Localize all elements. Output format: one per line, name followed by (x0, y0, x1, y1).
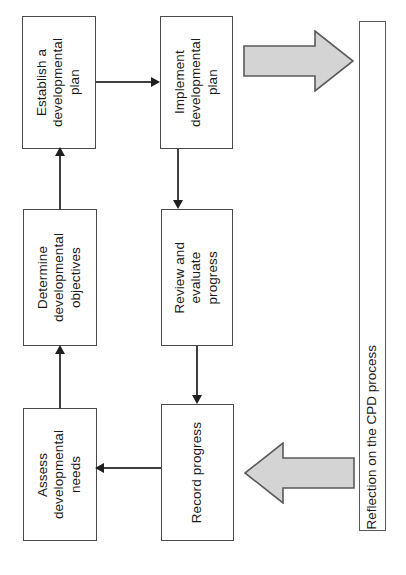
node-establish-plan-label: Establish a developmental plan (34, 38, 83, 127)
connector-assess-to-determine-arrowhead (55, 345, 65, 354)
connector-implement-to-review-line (177, 149, 179, 202)
block-arrow-from-reflection (244, 442, 356, 504)
connector-record-to-assess-arrowhead (95, 463, 104, 473)
connector-review-to-record-arrowhead (192, 395, 202, 404)
connector-review-to-record-line (196, 346, 198, 397)
node-determine-objectives[interactable]: Determine developmental objectives (23, 209, 97, 346)
connector-establish-to-implement-line (96, 81, 152, 83)
connector-determine-to-establish-arrowhead (55, 147, 65, 156)
node-implement-plan-label: Implement developmental plan (172, 38, 221, 127)
reflection-bar-label: Reflection on the CPD process (364, 339, 380, 530)
node-record-progress[interactable]: Record progress (161, 404, 234, 541)
reflection-bar[interactable]: Reflection on the CPD process (359, 21, 386, 531)
connector-record-to-assess-line (104, 467, 161, 469)
connector-assess-to-determine-line (59, 352, 61, 409)
node-establish-plan[interactable]: Establish a developmental plan (22, 16, 96, 149)
node-assess-needs-label: Assess developmental needs (35, 430, 84, 519)
node-determine-objectives-label: Determine developmental objectives (35, 233, 84, 322)
flowchart-canvas: Establish a developmental plan Implement… (0, 0, 406, 575)
connector-establish-to-implement-arrowhead (151, 77, 160, 87)
node-review-evaluate[interactable]: Review and evaluate progress (161, 209, 233, 346)
connector-determine-to-establish-line (59, 154, 61, 210)
connector-implement-to-review-arrowhead (173, 200, 183, 209)
node-assess-needs[interactable]: Assess developmental needs (23, 408, 97, 541)
node-review-evaluate-label: Review and evaluate progress (172, 242, 221, 314)
node-record-progress-label: Record progress (189, 422, 205, 523)
block-arrow-to-reflection (243, 30, 355, 92)
node-implement-plan[interactable]: Implement developmental plan (160, 16, 233, 149)
